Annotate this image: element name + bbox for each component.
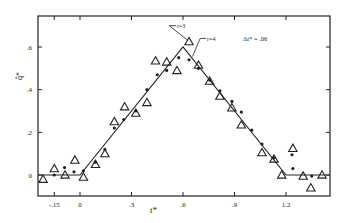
y-axis-label: q̂* <box>15 72 24 80</box>
annotation-dt: Δt* = .06 <box>243 35 268 42</box>
dot-marker <box>53 173 56 176</box>
axis-ticks: -.150.3.6.91.20.2.4.6 <box>27 16 330 209</box>
dot-marker <box>290 153 293 156</box>
triangle-marker <box>289 144 297 151</box>
exact-solution-line <box>38 47 330 175</box>
triangle-marker <box>307 184 315 191</box>
triangle-marker <box>162 58 170 65</box>
model-line <box>38 47 330 175</box>
dot-marker <box>145 88 148 91</box>
x-tick-label: 1.2 <box>282 201 291 209</box>
triangle-marker <box>143 98 151 105</box>
triangle-markers <box>39 37 326 190</box>
triangle-marker <box>278 171 286 178</box>
triangle-marker <box>91 160 99 167</box>
chart-figure: -.150.3.6.91.20.2.4.6 r=3r=4Δt* = .06 t*… <box>0 0 345 223</box>
dot-marker <box>250 129 253 132</box>
triangle-marker <box>120 103 128 110</box>
x-tick-label: .6 <box>180 201 186 209</box>
x-tick-label: .3 <box>129 201 135 209</box>
dot-marker <box>310 174 313 177</box>
dot-marker <box>260 142 263 145</box>
dot-marker <box>63 166 66 169</box>
y-tick-label: 0 <box>29 172 33 180</box>
triangle-marker <box>50 164 58 171</box>
annotation-r4: r=4 <box>207 36 215 42</box>
y-tick-label: .6 <box>27 44 33 52</box>
dot-marker <box>156 73 159 76</box>
dot-marker <box>122 118 125 121</box>
y-tick-label: .2 <box>27 129 33 137</box>
dot-marker <box>72 170 75 173</box>
annotation-r3: r=3 <box>177 23 185 29</box>
dot-marker <box>165 69 168 72</box>
plot-frame <box>38 16 330 196</box>
dot-marker <box>240 110 243 113</box>
triangle-marker <box>101 149 109 156</box>
r4-leader-line <box>192 38 206 56</box>
x-tick-label: -.15 <box>49 201 61 209</box>
dot-marker <box>187 58 190 61</box>
annotations: r=3r=4Δt* = .06 <box>169 23 268 56</box>
triangle-marker <box>151 57 159 64</box>
triangle-marker <box>39 175 47 182</box>
x-axis-label: t* <box>150 205 158 215</box>
x-tick-label: .9 <box>232 201 238 209</box>
x-tick-label: 0 <box>78 201 82 209</box>
plot-border <box>38 16 330 196</box>
triangle-marker <box>110 117 118 124</box>
triangle-marker <box>237 121 245 128</box>
dot-marker <box>177 56 180 59</box>
triangle-marker <box>216 92 224 99</box>
triangle-marker <box>173 66 181 73</box>
dot-markers <box>53 56 314 178</box>
triangle-marker <box>71 156 79 163</box>
dot-marker <box>113 126 116 129</box>
y-tick-label: .4 <box>27 86 33 94</box>
dot-marker <box>291 167 294 170</box>
